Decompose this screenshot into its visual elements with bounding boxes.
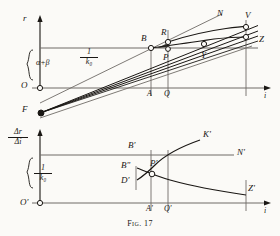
tick-label-Q-prime: Q': [164, 205, 172, 213]
point-label-Z-prime: Z': [248, 184, 255, 193]
point-label-N: N: [217, 9, 223, 18]
figure-caption: Fig. 17: [0, 219, 280, 228]
tick-label-Q: Q: [164, 90, 170, 98]
point-label-O: O: [21, 81, 28, 90]
slope-label-one-over-k0-lower: 1 k₀: [34, 164, 52, 182]
brace-one-over-k0: [27, 158, 33, 188]
axis-label-i-upper: i: [264, 92, 266, 100]
brace-alpha-beta: [27, 50, 33, 80]
marker-O: [37, 85, 42, 90]
marker-V: [243, 24, 248, 29]
bracket-label-alpha-beta: α+β: [36, 59, 50, 67]
line-PV: [40, 46, 252, 118]
upper-plot-group: [27, 14, 271, 118]
point-label-Y: Y: [201, 51, 206, 60]
axis-label-r: r: [23, 14, 27, 23]
marker-Pp: [149, 171, 155, 177]
marker-P: [166, 47, 171, 52]
point-label-V: V: [245, 11, 251, 20]
point-label-K-prime: K': [203, 130, 211, 139]
point-label-R: R: [161, 28, 167, 37]
point-label-O-prime: O': [20, 198, 28, 207]
figure-drawing-canvas: [0, 0, 280, 236]
point-label-P-prime: P': [150, 159, 157, 168]
point-label-P: P: [163, 53, 169, 62]
tick-label-A: A: [147, 90, 152, 98]
marker-Op: [37, 200, 42, 205]
slope-label-one-over-k0-upper: 1 k₀: [80, 48, 98, 66]
slope-numerator-upper: 1: [80, 48, 98, 56]
axis-label-delta-r-delta-i: Δr Δi: [8, 128, 28, 146]
delta-r-numerator: Δr: [8, 128, 28, 136]
slope-denominator-upper: k₀: [80, 58, 98, 66]
slope-denominator-lower: k₀: [34, 174, 52, 182]
marker-F: [38, 110, 44, 116]
figure-fig-17: r O F B R P Y N V Z A Q i α+β 1 k₀ Δr Δi…: [0, 0, 280, 236]
marker-Y: [201, 41, 206, 46]
delta-i-denominator: Δi: [8, 138, 28, 146]
point-label-Z: Z: [259, 35, 264, 44]
lower-plot-group: [27, 129, 271, 211]
point-label-B: B: [141, 34, 147, 43]
curve-PK: [137, 140, 200, 180]
marker-B: [148, 45, 153, 50]
point-label-D-prime: D': [121, 176, 129, 185]
tick-label-A-prime: A': [146, 205, 153, 213]
upper-y-axis: [37, 15, 42, 88]
axis-label-i-lower: i: [264, 207, 266, 215]
point-label-N-prime: N': [237, 148, 245, 157]
slope-numerator-lower: 1: [34, 164, 52, 172]
point-label-F: F: [22, 105, 28, 114]
marker-Z: [243, 34, 248, 39]
marker-R: [165, 39, 170, 44]
point-label-B-prime: B': [128, 141, 135, 150]
point-label-B-double-prime: B": [121, 161, 130, 170]
line-pencil-from-F: [40, 26, 258, 114]
